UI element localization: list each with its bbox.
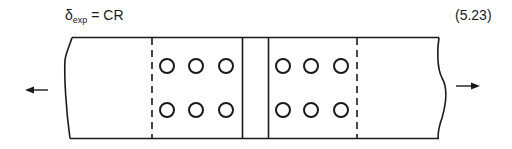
left-break-line [65,38,72,139]
bolt-hole-icon [160,59,174,73]
left-arrow-icon [25,87,34,94]
right-break-line [438,38,446,139]
bolt-hole-icon [276,103,290,117]
left-bolt-group [160,59,233,117]
bolt-hole-icon [160,103,174,117]
bolt-hole-icon [334,103,348,117]
bolt-hole-icon [189,103,203,117]
bolt-hole-icon [304,59,318,73]
splice-joint-diagram [0,0,512,149]
right-arrow-icon [471,83,480,90]
bolt-hole-icon [219,103,233,117]
right-bolt-group [276,59,348,117]
bolt-hole-icon [334,59,348,73]
bolt-hole-icon [189,59,203,73]
bolt-hole-icon [304,103,318,117]
bolt-hole-icon [276,59,290,73]
bolt-hole-icon [219,59,233,73]
